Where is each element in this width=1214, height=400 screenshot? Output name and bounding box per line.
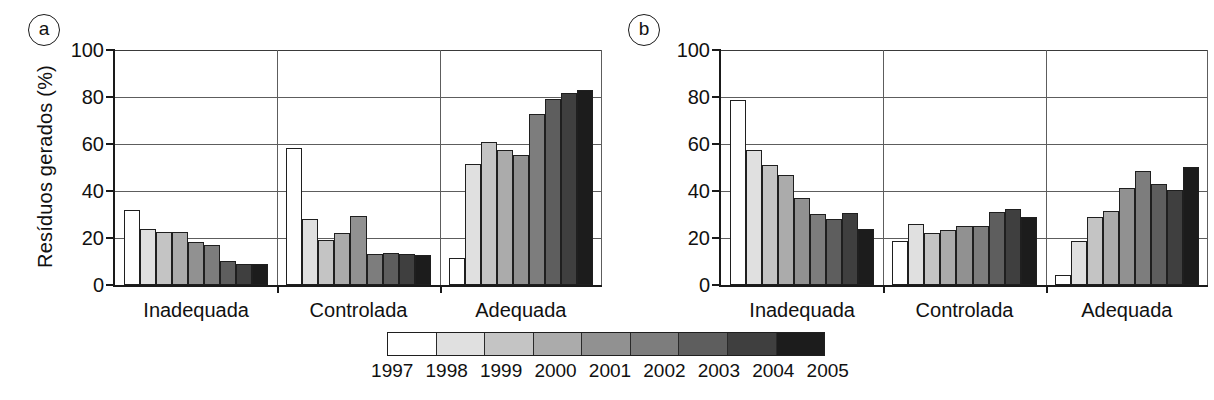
bar-b-inadequada-2001 bbox=[794, 198, 810, 285]
legend-swatch-2002 bbox=[631, 333, 680, 355]
bar-a-inadequada-2003 bbox=[220, 261, 236, 285]
bar-a-controlada-2001 bbox=[350, 216, 366, 285]
bar-b-inadequada-1999 bbox=[762, 165, 778, 285]
legend-color-strip bbox=[387, 332, 825, 356]
bar-a-adequada-1999 bbox=[481, 142, 497, 285]
bar-b-inadequada-2000 bbox=[778, 175, 794, 285]
y-tick-label-b-20: 20 bbox=[688, 228, 710, 248]
y-tick-mark-a-40 bbox=[106, 190, 115, 192]
bar-a-inadequada-2000 bbox=[172, 232, 188, 285]
bar-group-a-controlada: Controlada bbox=[277, 50, 439, 285]
y-tick-mark-b-80 bbox=[712, 96, 721, 98]
bar-b-adequada-2000 bbox=[1103, 211, 1119, 285]
bar-a-adequada-2002 bbox=[529, 114, 545, 285]
bar-a-controlada-1999 bbox=[318, 240, 334, 285]
y-tick-mark-a-0 bbox=[106, 284, 115, 286]
bar-a-controlada-2004 bbox=[399, 254, 415, 285]
bar-b-controlada-1998 bbox=[908, 224, 924, 285]
y-tick-mark-a-20 bbox=[106, 237, 115, 239]
panel-a-plot-area: 020406080100InadequadaControladaAdequada bbox=[113, 50, 602, 287]
x-axis-label-b-inadequada: Inadequada bbox=[749, 299, 855, 322]
bar-b-controlada-2005 bbox=[1021, 217, 1037, 285]
legend-swatch-1998 bbox=[437, 333, 486, 355]
x-tick-b-1 bbox=[883, 285, 885, 293]
legend-year-1999: 1999 bbox=[474, 360, 528, 382]
legend-year-2002: 2002 bbox=[637, 360, 691, 382]
bar-b-inadequada-1997 bbox=[730, 100, 746, 285]
bar-a-controlada-2005 bbox=[415, 255, 431, 285]
x-tick-b-2 bbox=[1046, 285, 1048, 293]
legend-year-2004: 2004 bbox=[746, 360, 800, 382]
legend-swatch-2001 bbox=[582, 333, 631, 355]
bar-b-controlada-2004 bbox=[1005, 209, 1021, 285]
bar-a-inadequada-1998 bbox=[140, 229, 156, 285]
bar-b-adequada-2005 bbox=[1183, 167, 1199, 285]
legend-swatch-2003 bbox=[679, 333, 728, 355]
bar-a-adequada-1997 bbox=[449, 258, 465, 285]
bar-b-controlada-1997 bbox=[892, 241, 908, 285]
bar-b-controlada-2000 bbox=[940, 230, 956, 285]
y-tick-label-b-100: 100 bbox=[677, 40, 710, 60]
bar-a-adequada-2000 bbox=[497, 150, 513, 285]
bar-a-controlada-1998 bbox=[302, 219, 318, 285]
legend: 199719981999200020012002200320042005 bbox=[0, 322, 1214, 400]
bar-group-b-controlada: Controlada bbox=[883, 50, 1045, 285]
bar-a-inadequada-2004 bbox=[236, 264, 252, 285]
panel-a: a Resíduos gerados (%) 020406080100Inade… bbox=[0, 0, 608, 320]
bar-b-inadequada-2004 bbox=[842, 213, 858, 285]
bar-b-controlada-2002 bbox=[973, 226, 989, 285]
x-axis-label-a-controlada: Controlada bbox=[310, 299, 408, 322]
x-axis-label-a-inadequada: Inadequada bbox=[143, 299, 249, 322]
bar-a-controlada-2002 bbox=[367, 254, 383, 285]
bar-group-b-adequada: Adequada bbox=[1046, 50, 1208, 285]
y-tick-label-a-100: 100 bbox=[71, 40, 104, 60]
y-tick-label-b-40: 40 bbox=[688, 181, 710, 201]
y-tick-mark-b-60 bbox=[712, 143, 721, 145]
y-tick-label-b-80: 80 bbox=[688, 87, 710, 107]
y-tick-label-a-40: 40 bbox=[82, 181, 104, 201]
x-tick-a-1 bbox=[277, 285, 279, 293]
bar-b-inadequada-2005 bbox=[858, 229, 874, 285]
legend-swatch-2005 bbox=[777, 333, 825, 355]
y-tick-label-a-0: 0 bbox=[93, 275, 104, 295]
legend-year-1998: 1998 bbox=[419, 360, 473, 382]
x-tick-a-2 bbox=[440, 285, 442, 293]
bar-b-adequada-1998 bbox=[1071, 241, 1087, 285]
bar-b-adequada-2003 bbox=[1151, 184, 1167, 285]
legend-year-2001: 2001 bbox=[583, 360, 637, 382]
bar-a-inadequada-1997 bbox=[124, 210, 140, 285]
x-axis-label-b-controlada: Controlada bbox=[916, 299, 1014, 322]
bar-b-adequada-2002 bbox=[1135, 171, 1151, 285]
y-tick-label-a-80: 80 bbox=[82, 87, 104, 107]
y-tick-mark-b-20 bbox=[712, 237, 721, 239]
legend-swatch-2000 bbox=[534, 333, 583, 355]
legend-swatch-1997 bbox=[388, 333, 437, 355]
y-tick-label-b-0: 0 bbox=[699, 275, 710, 295]
legend-year-labels: 199719981999200020012002200320042005 bbox=[365, 360, 855, 382]
x-axis-label-a-adequada: Adequada bbox=[475, 299, 566, 322]
bar-b-controlada-2003 bbox=[989, 212, 1005, 285]
panel-b: b Municípios (%) 020406080100InadequadaC… bbox=[606, 0, 1214, 320]
bar-group-b-inadequada: Inadequada bbox=[721, 50, 883, 285]
legend-swatch-1999 bbox=[485, 333, 534, 355]
bar-a-inadequada-2002 bbox=[204, 245, 220, 285]
y-tick-label-b-60: 60 bbox=[688, 134, 710, 154]
y-tick-label-a-20: 20 bbox=[82, 228, 104, 248]
bar-a-controlada-2000 bbox=[334, 233, 350, 285]
bar-group-a-inadequada: Inadequada bbox=[115, 50, 277, 285]
legend-year-2003: 2003 bbox=[692, 360, 746, 382]
figure-root: a Resíduos gerados (%) 020406080100Inade… bbox=[0, 0, 1214, 400]
bar-b-inadequada-2003 bbox=[826, 219, 842, 286]
bar-b-adequada-2004 bbox=[1167, 190, 1183, 285]
bar-b-inadequada-1998 bbox=[746, 150, 762, 285]
y-tick-mark-a-100 bbox=[106, 49, 115, 51]
panel-a-y-axis-title: Resíduos gerados (%) bbox=[34, 65, 57, 268]
bar-a-adequada-2005 bbox=[577, 90, 593, 285]
bar-b-controlada-2001 bbox=[956, 226, 972, 285]
y-tick-mark-a-80 bbox=[106, 96, 115, 98]
panel-b-tag: b bbox=[628, 14, 660, 46]
bar-b-adequada-2001 bbox=[1119, 188, 1135, 285]
bar-group-a-adequada: Adequada bbox=[440, 50, 602, 285]
bar-b-inadequada-2002 bbox=[810, 214, 826, 285]
legend-swatch-2004 bbox=[728, 333, 777, 355]
